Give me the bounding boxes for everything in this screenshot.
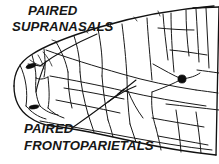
labial-mark-icon [29, 104, 39, 109]
head-scalation-diagram: PAIRED SUPRANASALS PAIRED FRONTOPARIETAL… [0, 0, 219, 164]
lower-cheek-suture-b [108, 120, 113, 137]
parietal-left-edge [163, 14, 168, 60]
ocular-upper-edge [153, 64, 182, 79]
nuchal-suture-2 [206, 8, 209, 68]
label-supranasals-line2: SUPRANASALS [12, 19, 114, 34]
rostral-scale-edge [20, 65, 27, 106]
dorsal-tick-1 [52, 40, 58, 42]
temporal-suture-a [196, 90, 218, 93]
snout-scale-group [20, 49, 64, 119]
cheek-suture-3 [102, 76, 108, 120]
figure-container: PAIRED SUPRANASALS PAIRED FRONTOPARIETAL… [0, 0, 219, 164]
leader-line-supranasals [40, 34, 97, 66]
parietal-transverse-a [158, 28, 194, 30]
label-frontoparietals-line1: PAIRED [24, 121, 74, 136]
label-supranasals-line1: PAIRED [28, 3, 78, 18]
lower-cheek-suture-f [196, 112, 201, 153]
nasal-scale-edge [36, 77, 48, 79]
cheek-transverse-a [56, 100, 120, 113]
frontal-anterior-suture [98, 29, 102, 76]
temporal-transverse-c [166, 104, 219, 110]
label-frontoparietals-line2: FRONTOPARIETALS [24, 138, 154, 153]
cheek-suture-2 [80, 72, 88, 114]
ocular-lower-edge [152, 79, 182, 92]
lower-cheek-suture-a [88, 114, 94, 132]
dorsal-head-margin [14, 6, 214, 86]
neck-rear-margin [216, 7, 219, 155]
internasal-suture-a [38, 55, 44, 69]
eye-icon [178, 75, 186, 83]
interparietal-suture [171, 13, 174, 72]
frontoparietal-suture [147, 18, 152, 80]
prefrontal-suture [74, 36, 80, 72]
temporal-suture-b [197, 70, 219, 73]
parietal-nuchal-group [158, 8, 219, 93]
parietal-right-edge [186, 10, 189, 56]
preocular-edge [48, 77, 49, 108]
frontal-posterior-suture [122, 24, 127, 78]
